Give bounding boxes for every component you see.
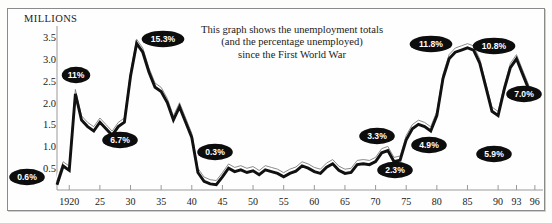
x-tick-label: 96 xyxy=(530,196,540,207)
x-tick-label: 55 xyxy=(279,196,289,207)
annotation-bubble: 7.0% xyxy=(506,86,542,102)
annotation-bubble: 3.3% xyxy=(359,128,395,144)
x-tick-label: 85 xyxy=(462,196,472,207)
annotation-bubble: 0.6% xyxy=(9,169,45,185)
x-tick-label: 65 xyxy=(340,196,350,207)
annotation-bubble-label: 11.8% xyxy=(419,39,443,49)
annotation-bubble: 5.9% xyxy=(476,146,512,162)
annotation-bubble-label: 0.6% xyxy=(17,172,37,182)
annotation-bubble-label: 11% xyxy=(68,70,85,80)
chart-caption: This graph shows the unemployment totals… xyxy=(197,24,387,61)
annotation-bubble-label: 5.9% xyxy=(484,149,504,159)
chart-figure: MILLIONS 0.51.01.52.02.53.03.5 0.6%11%6.… xyxy=(0,0,552,223)
annotation-bubble: 0.3% xyxy=(197,144,233,160)
x-tick-label: 75 xyxy=(401,196,411,207)
x-tick-label: 30 xyxy=(126,196,136,207)
x-tick-label: 50 xyxy=(248,196,258,207)
x-tick-label: 93 xyxy=(511,196,521,207)
annotation-bubble: 4.9% xyxy=(411,137,447,153)
caption-line: since the First World War xyxy=(197,49,387,61)
caption-line: (and the percentage unemployed) xyxy=(197,36,387,48)
caption-line: This graph shows the unemployment totals xyxy=(197,24,387,36)
x-tick-label: 40 xyxy=(187,196,197,207)
annotation-bubble-label: 6.7% xyxy=(110,135,130,145)
x-tick-label: 70 xyxy=(371,196,381,207)
annotation-bubble-label: 7.0% xyxy=(514,89,534,99)
annotation-bubble-label: 0.3% xyxy=(205,147,225,157)
annotation-bubble: 2.3% xyxy=(377,162,413,178)
annotation-bubble: 15.3% xyxy=(142,31,185,47)
annotation-bubble: 10.8% xyxy=(473,38,516,54)
x-tick-label: 80 xyxy=(432,196,442,207)
annotation-bubble: 11% xyxy=(62,67,91,83)
x-axis-tick-labels: 192025303540455055606570758085909396 xyxy=(0,196,552,212)
annotation-bubble-label: 2.3% xyxy=(385,165,405,175)
annotation-bubble-label: 3.3% xyxy=(367,131,387,141)
x-tick-label: 90 xyxy=(493,196,503,207)
x-tick-label: 60 xyxy=(309,196,319,207)
x-tick-label: 25 xyxy=(95,196,105,207)
x-tick-label: 45 xyxy=(217,196,227,207)
annotation-bubble-label: 15.3% xyxy=(151,34,176,44)
x-tick-label: 35 xyxy=(156,196,166,207)
annotation-bubble-label: 10.8% xyxy=(482,41,507,51)
series-unemployment-total xyxy=(57,43,535,184)
annotation-bubble: 6.7% xyxy=(102,132,138,148)
annotation-bubble: 11.8% xyxy=(410,36,453,52)
annotation-bubble-label: 4.9% xyxy=(419,140,439,150)
x-tick-label: 1920 xyxy=(59,196,79,207)
